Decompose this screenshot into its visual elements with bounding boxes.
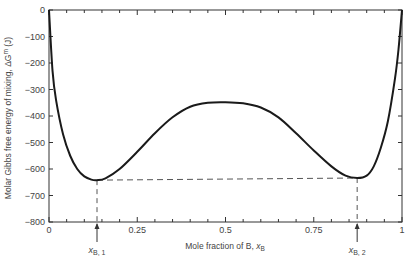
y-axis: 0−100−200−300−400−500−600−700−800 — [25, 5, 402, 227]
y-tick-label: −600 — [25, 164, 45, 174]
plot-frame — [49, 10, 402, 222]
y-tick-label: −700 — [25, 191, 45, 201]
xb-label: xB, 2 — [348, 245, 366, 256]
chart: 0−100−200−300−400−500−600−700−800 00.250… — [0, 0, 407, 256]
x-tick-label: 1 — [399, 225, 404, 235]
common-tangent-line — [97, 178, 357, 180]
x-axis: 00.250.50.751 — [46, 10, 404, 235]
y-tick-label: −100 — [25, 32, 45, 42]
x-tick-label: 0.75 — [305, 225, 323, 235]
y-tick-label: −200 — [25, 58, 45, 68]
x-tick-label: 0.5 — [219, 225, 232, 235]
y-axis-title: Molar Gibbs free energy of mixing, ΔGm (… — [2, 37, 13, 199]
y-tick-label: −500 — [25, 138, 45, 148]
y-tick-label: −300 — [25, 85, 45, 95]
y-tick-label: 0 — [40, 5, 45, 15]
y-tick-label: −800 — [25, 217, 45, 227]
x-axis-title: Mole fraction of B, xB — [185, 241, 264, 252]
x-tick-label: 0.25 — [128, 225, 146, 235]
y-tick-label: −400 — [25, 111, 45, 121]
x-tick-label: 0 — [46, 225, 51, 235]
gibbs-energy-curve — [49, 10, 402, 180]
xb-label: xB, 1 — [88, 245, 106, 256]
